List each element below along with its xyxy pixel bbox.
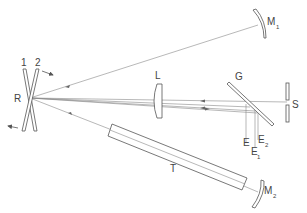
tube-t-axis bbox=[110, 130, 245, 184]
arrow-plate-1 bbox=[8, 126, 18, 128]
label-e2: E bbox=[258, 134, 265, 145]
label-m1: M bbox=[267, 16, 275, 27]
grating-g bbox=[227, 82, 274, 126]
slit-s-top bbox=[286, 83, 289, 100]
label-s: S bbox=[292, 99, 299, 110]
label-r: R bbox=[14, 93, 21, 104]
label-plate-1: 1 bbox=[21, 57, 27, 68]
slit-s-bottom bbox=[286, 105, 289, 122]
label-e2-sub: 2 bbox=[265, 142, 269, 148]
mirror-m1 bbox=[253, 9, 266, 38]
label-e: E bbox=[243, 137, 250, 148]
ray-r-to-g1 bbox=[30, 98, 250, 107]
label-m2: M bbox=[264, 185, 272, 196]
label-m1-sub: 1 bbox=[276, 24, 280, 30]
lens-l bbox=[154, 84, 162, 118]
arrow-plate-2 bbox=[42, 71, 53, 75]
label-e1-sub: 1 bbox=[257, 154, 261, 160]
optical-diagram: 1 2 R L G S M 1 M 2 T E E 1 E 2 bbox=[0, 0, 307, 213]
arrow-r-t bbox=[68, 112, 72, 115]
label-l: L bbox=[155, 70, 161, 81]
mirror-m2 bbox=[252, 180, 264, 208]
label-plate-2: 2 bbox=[35, 57, 41, 68]
label-m2-sub: 2 bbox=[273, 193, 277, 199]
ray-r-to-m1 bbox=[30, 25, 258, 98]
arrow-slit-ray bbox=[200, 100, 205, 103]
ray-r-to-g3 bbox=[30, 98, 257, 113]
label-t: T bbox=[170, 163, 176, 174]
label-g: G bbox=[235, 71, 243, 82]
